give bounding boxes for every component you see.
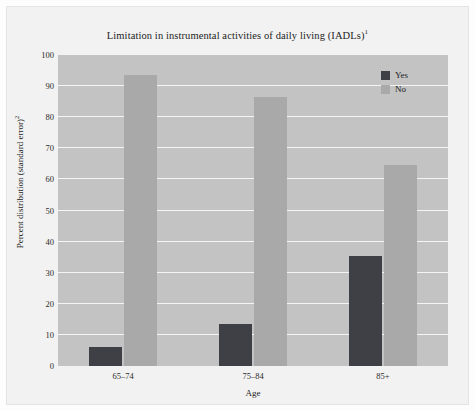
legend: YesNo <box>381 68 443 96</box>
y-axis-tick-label: 0 <box>14 361 54 371</box>
gridline <box>58 54 448 55</box>
legend-item-label: No <box>395 85 406 94</box>
bar-no-0 <box>124 75 157 366</box>
legend-swatch-no <box>381 85 390 94</box>
x-axis-tick-label: 65–74 <box>83 371 163 381</box>
bar-yes-0 <box>89 347 122 366</box>
gridline <box>58 147 448 148</box>
x-axis-tick-label: 75–84 <box>213 371 293 381</box>
chart-title-text: Limitation in instrumental activities of… <box>107 30 365 41</box>
x-axis-label: Age <box>58 388 448 398</box>
y-axis-tick-label: 60 <box>14 174 54 184</box>
y-axis-tick-label: 30 <box>14 268 54 278</box>
bar-no-1 <box>254 97 287 366</box>
y-axis-ticks: 0102030405060708090100 <box>10 55 54 366</box>
y-axis-tick-label: 20 <box>14 299 54 309</box>
y-axis-tick-label: 90 <box>14 81 54 91</box>
legend-item: Yes <box>381 68 443 82</box>
y-axis-tick-label: 80 <box>14 112 54 122</box>
bar-no-2 <box>384 165 417 366</box>
chart-title-footnote-marker: 1 <box>365 28 369 36</box>
x-axis-tick-label: 85+ <box>343 371 423 381</box>
plot-area <box>58 55 448 366</box>
legend-item: No <box>381 82 443 96</box>
bar-yes-2 <box>349 256 382 366</box>
legend-item-label: Yes <box>395 71 408 80</box>
y-axis-tick-label: 50 <box>14 206 54 216</box>
gridline <box>58 116 448 117</box>
x-axis-ticks: 65–7475–8485+ <box>58 371 448 387</box>
y-axis-tick-label: 100 <box>14 50 54 60</box>
y-axis-tick-label: 10 <box>14 330 54 340</box>
y-axis-tick-label: 40 <box>14 237 54 247</box>
bar-yes-1 <box>219 324 252 366</box>
figure-container: Limitation in instrumental activities of… <box>0 0 475 411</box>
y-axis-tick-label: 70 <box>14 143 54 153</box>
chart-title: Limitation in instrumental activities of… <box>0 28 475 41</box>
legend-swatch-yes <box>381 71 390 80</box>
